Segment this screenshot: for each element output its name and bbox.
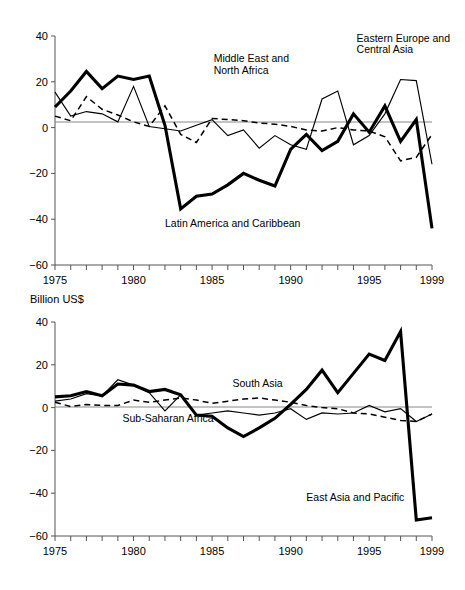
ytick-label: −40 xyxy=(29,487,48,499)
xtick-label: 1990 xyxy=(278,274,302,286)
xtick-label: 1985 xyxy=(200,274,224,286)
ytick-label: 40 xyxy=(36,30,48,42)
series-annotation-label: Latin America and Caribbean xyxy=(165,217,301,229)
ytick-label: −20 xyxy=(29,444,48,456)
xtick-label: 1999 xyxy=(420,545,444,557)
series-annotation-label: Sub-Saharan Africa xyxy=(123,412,214,424)
series-annotation-label: Central Asia xyxy=(357,43,414,55)
ytick-label: 20 xyxy=(36,359,48,371)
ytick-label: −60 xyxy=(29,259,48,271)
ytick-label: 0 xyxy=(42,122,48,134)
ytick-label: 0 xyxy=(42,402,48,414)
ytick-label: −40 xyxy=(29,213,48,225)
xtick-label: 1995 xyxy=(357,545,381,557)
xtick-label: 1995 xyxy=(357,274,381,286)
series-annotation-label: North Africa xyxy=(214,64,269,76)
ytick-label: −20 xyxy=(29,167,48,179)
xtick-label: 1990 xyxy=(278,545,302,557)
xtick-label: 1999 xyxy=(420,274,444,286)
xtick-label: 1975 xyxy=(43,274,67,286)
ytick-label: 20 xyxy=(36,76,48,88)
ytick-label: 40 xyxy=(36,316,48,328)
series-annotation-label: South Asia xyxy=(233,377,283,389)
xtick-label: 1980 xyxy=(121,545,145,557)
economic-flows-figure: 40200−20−40−60 197519801985199019951999 … xyxy=(0,0,465,590)
series-annotation-label: Eastern Europe and xyxy=(357,32,451,44)
xtick-label: 1980 xyxy=(121,274,145,286)
xtick-label: 1975 xyxy=(43,545,67,557)
chart-canvas: 40200−20−40−60 197519801985199019951999 … xyxy=(0,0,465,590)
y-axis-unit-title: Billion US$ xyxy=(30,293,84,305)
xtick-label: 1985 xyxy=(200,545,224,557)
ytick-label: −60 xyxy=(29,530,48,542)
series-annotation-label: East Asia and Pacific xyxy=(306,491,404,503)
series-annotation-label: Middle East and xyxy=(214,52,289,64)
